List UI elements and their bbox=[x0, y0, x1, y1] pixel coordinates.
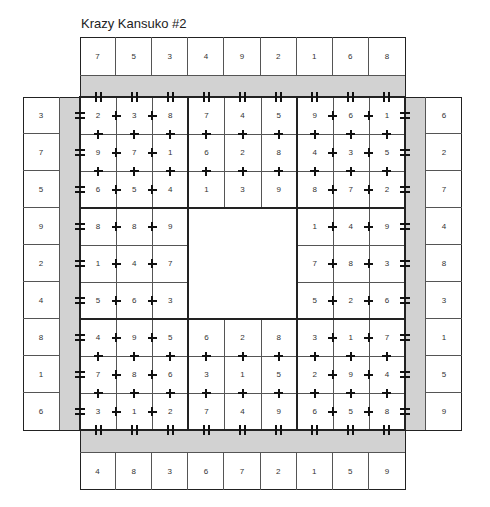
plus-sign-icon bbox=[94, 167, 103, 176]
left-clue-cell: 6 bbox=[23, 393, 60, 430]
double-bar-icon bbox=[203, 92, 210, 102]
plus-sign-icon bbox=[328, 148, 337, 157]
bottom-clue-cell: 2 bbox=[261, 452, 297, 490]
grid-cell[interactable]: 1 bbox=[152, 134, 188, 171]
double-bar-icon bbox=[95, 425, 102, 435]
plus-sign-icon bbox=[112, 370, 121, 379]
equals-sign-icon bbox=[75, 334, 85, 341]
plus-sign-icon bbox=[346, 130, 355, 139]
top-clue-cell: 2 bbox=[261, 37, 297, 76]
grid-cell[interactable]: 9 bbox=[261, 171, 297, 208]
bottom-clue-cell: 7 bbox=[224, 452, 260, 490]
equals-sign-icon bbox=[400, 186, 410, 193]
plus-sign-icon bbox=[310, 130, 319, 139]
double-bar-icon bbox=[275, 425, 282, 435]
grid-cell[interactable]: 2 bbox=[224, 134, 260, 171]
grid-cell[interactable]: 7 bbox=[152, 245, 188, 282]
plus-sign-icon bbox=[364, 222, 373, 231]
bottom-clue-cell: 4 bbox=[80, 452, 116, 490]
equals-sign-icon bbox=[75, 223, 85, 230]
plus-sign-icon bbox=[94, 130, 103, 139]
grid-cell[interactable]: 8 bbox=[152, 97, 188, 134]
plus-sign-icon bbox=[328, 259, 337, 268]
equals-sign-icon bbox=[400, 334, 410, 341]
plus-sign-icon bbox=[238, 389, 247, 398]
plus-sign-icon bbox=[328, 111, 337, 120]
plus-sign-icon bbox=[238, 167, 247, 176]
plus-sign-icon bbox=[346, 167, 355, 176]
double-bar-icon bbox=[131, 425, 138, 435]
bottom-clue-cell: 5 bbox=[333, 452, 369, 490]
plus-sign-icon bbox=[112, 407, 121, 416]
grid-cell[interactable]: 3 bbox=[152, 282, 188, 319]
double-bar-icon bbox=[203, 425, 210, 435]
left-clue-cell: 9 bbox=[23, 208, 60, 245]
top-clue-cell: 5 bbox=[116, 37, 152, 76]
plus-sign-icon bbox=[112, 259, 121, 268]
grid-cell[interactable]: 3 bbox=[224, 171, 260, 208]
grid-cell[interactable]: 3 bbox=[188, 356, 224, 393]
top-clue-cell: 8 bbox=[369, 37, 405, 76]
plus-sign-icon bbox=[382, 352, 391, 361]
grid-cell[interactable]: 4 bbox=[152, 171, 188, 208]
bottom-clue-cell: 8 bbox=[116, 452, 152, 490]
equals-sign-icon bbox=[400, 371, 410, 378]
equals-sign-icon bbox=[400, 260, 410, 267]
top-clue-cell: 1 bbox=[297, 37, 333, 76]
grid-cell[interactable]: 8 bbox=[261, 134, 297, 171]
grid-cell[interactable]: 4 bbox=[224, 97, 260, 134]
right-clue-cell: 2 bbox=[425, 134, 462, 171]
grid-cell[interactable]: 5 bbox=[152, 319, 188, 356]
bottom-clue-cell: 9 bbox=[369, 452, 405, 490]
bottom-clue-cell: 3 bbox=[152, 452, 188, 490]
grid-cell[interactable]: 8 bbox=[261, 319, 297, 356]
left-clue-cell: 8 bbox=[23, 319, 60, 356]
grid-cell[interactable]: 1 bbox=[188, 171, 224, 208]
plus-sign-icon bbox=[112, 222, 121, 231]
plus-sign-icon bbox=[166, 352, 175, 361]
plus-sign-icon bbox=[130, 389, 139, 398]
grid-cell[interactable]: 6 bbox=[152, 356, 188, 393]
grid-cell[interactable]: 5 bbox=[261, 356, 297, 393]
double-bar-icon bbox=[239, 425, 246, 435]
plus-sign-icon bbox=[382, 167, 391, 176]
plus-sign-icon bbox=[202, 389, 211, 398]
plus-sign-icon bbox=[202, 352, 211, 361]
grid-cell[interactable]: 1 bbox=[224, 356, 260, 393]
top-clue-cell: 9 bbox=[224, 37, 260, 76]
plus-sign-icon bbox=[328, 296, 337, 305]
plus-sign-icon bbox=[130, 130, 139, 139]
grid-cell[interactable]: 9 bbox=[152, 208, 188, 245]
left-clue-cell: 7 bbox=[23, 134, 60, 171]
equals-sign-icon bbox=[75, 149, 85, 156]
plus-sign-icon bbox=[238, 130, 247, 139]
plus-sign-icon bbox=[310, 352, 319, 361]
top-clue-cell: 7 bbox=[80, 37, 116, 76]
plus-sign-icon bbox=[112, 111, 121, 120]
equals-sign-icon bbox=[400, 149, 410, 156]
double-bar-icon bbox=[383, 92, 390, 102]
grid-cell[interactable]: 5 bbox=[261, 97, 297, 134]
right-clue-cell: 7 bbox=[425, 171, 462, 208]
equals-sign-icon bbox=[75, 260, 85, 267]
plus-sign-icon bbox=[202, 130, 211, 139]
equals-sign-icon bbox=[75, 186, 85, 193]
double-bar-icon bbox=[311, 92, 318, 102]
grid-cell[interactable]: 2 bbox=[224, 319, 260, 356]
equals-sign-icon bbox=[75, 112, 85, 119]
double-bar-icon bbox=[95, 92, 102, 102]
grid-cell[interactable]: 6 bbox=[188, 134, 224, 171]
grid-cell[interactable]: 7 bbox=[188, 97, 224, 134]
double-bar-icon bbox=[347, 92, 354, 102]
equals-sign-icon bbox=[400, 223, 410, 230]
plus-sign-icon bbox=[166, 389, 175, 398]
double-bar-icon bbox=[347, 425, 354, 435]
plus-sign-icon bbox=[94, 352, 103, 361]
plus-sign-icon bbox=[94, 389, 103, 398]
plus-sign-icon bbox=[148, 370, 157, 379]
left-clue-cell: 2 bbox=[23, 245, 60, 282]
grid-cell[interactable]: 6 bbox=[188, 319, 224, 356]
plus-sign-icon bbox=[112, 333, 121, 342]
plus-sign-icon bbox=[148, 407, 157, 416]
plus-sign-icon bbox=[148, 296, 157, 305]
